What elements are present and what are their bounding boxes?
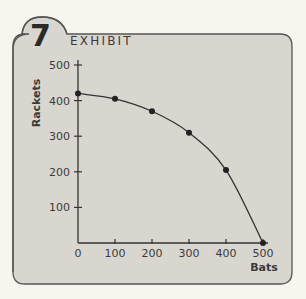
y-axis-title: Rackets [30, 78, 43, 127]
x-axis-title: Bats [250, 261, 278, 274]
x-tick-label: 400 [216, 247, 237, 260]
x-tick-label: 0 [75, 247, 82, 260]
exhibit-figure: 7 EXHIBIT 100200300400500 01002003004005… [0, 0, 306, 299]
y-tick-label: 200 [49, 166, 70, 179]
data-point [112, 96, 118, 102]
y-tick-label: 400 [49, 95, 70, 108]
exhibit-number: 7 [30, 18, 51, 53]
data-point [223, 167, 229, 173]
x-tick-label: 500 [253, 247, 274, 260]
data-point [260, 240, 266, 246]
y-tick-label: 500 [49, 59, 70, 72]
exhibit-label: EXHIBIT [70, 34, 133, 48]
x-tick-label: 200 [142, 247, 163, 260]
data-point [186, 130, 192, 136]
data-point [75, 90, 81, 96]
x-tick-label: 300 [179, 247, 200, 260]
x-tick-label: 100 [105, 247, 126, 260]
data-point [149, 108, 155, 114]
y-tick-label: 300 [49, 130, 70, 143]
y-tick-label: 100 [49, 201, 70, 214]
